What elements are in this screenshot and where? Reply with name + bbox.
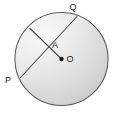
label-A: A xyxy=(52,40,58,50)
geometry-diagram: Q P A O xyxy=(0,0,119,117)
label-P: P xyxy=(5,75,11,85)
label-O: O xyxy=(66,54,73,64)
center-point-dot xyxy=(59,57,63,61)
geometry-figure: Q P A O xyxy=(0,0,119,117)
label-Q: Q xyxy=(69,2,76,12)
